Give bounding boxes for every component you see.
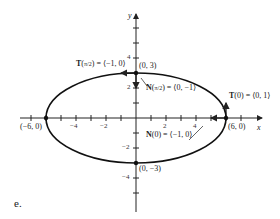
ellipse-diagram	[0, 0, 280, 219]
x-tick-label: −2	[100, 123, 107, 130]
x-tick-label: 4	[193, 123, 197, 130]
annotation-T-pi2: T(π/2) = ⟨−1, 0⟩	[76, 60, 126, 68]
point-label-left: (−6, 0)	[20, 123, 42, 131]
y-tick-label: 2	[127, 84, 131, 91]
y-tick-label: −2	[122, 144, 129, 151]
y-tick-label: 4	[127, 54, 131, 61]
y-tick-label: −4	[122, 174, 129, 181]
point-label-right: (6, 0)	[228, 123, 245, 131]
x-axis-label: x	[257, 124, 261, 132]
annotation-T0: T(0) = ⟨0, 1⟩	[229, 92, 270, 100]
point-label-top: (0, 3)	[139, 62, 156, 70]
annotation-N0: N(0) = ⟨−1, 0⟩	[146, 131, 192, 139]
point-label-bottom: (0, −3)	[139, 165, 161, 173]
x-tick-label: −4	[70, 123, 77, 130]
part-label: e.	[14, 198, 22, 209]
x-tick-label: 2	[163, 123, 167, 130]
annotation-N-pi2: N(π/2) = ⟨0, −1⟩	[146, 84, 196, 92]
y-axis-label: y	[128, 12, 132, 20]
